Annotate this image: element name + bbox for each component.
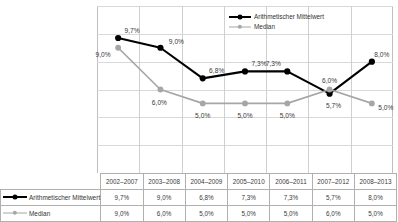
data-label: 8,0% — [374, 50, 389, 57]
data-point — [158, 87, 164, 93]
legend-label-mean: Arithmetischer Mittelwert — [254, 12, 324, 22]
legend-marker-mean-icon — [3, 192, 27, 203]
data-label: 6,0% — [322, 76, 337, 83]
table-column-header: 2003–2008 — [143, 174, 185, 190]
data-label: 9,7% — [125, 27, 140, 34]
data-point — [369, 59, 375, 65]
data-point — [284, 101, 290, 107]
table-row-header-median: Median — [29, 210, 50, 217]
table-row: Median9,0%6,0%5,0%5,0%5,0%6,0%5,0% — [1, 205, 397, 221]
data-point — [200, 75, 206, 81]
table-cell: 6,0% — [143, 205, 185, 221]
legend-marker-median-icon — [3, 208, 27, 219]
table-cell: 7,3% — [270, 189, 312, 205]
data-point — [242, 68, 248, 74]
data-point — [157, 45, 163, 51]
table-cell: 5,0% — [270, 205, 312, 221]
chart-container: 0,0%2,0%4,0%6,0%8,0%10,0%12,0% 9,7%9,0%6… — [0, 0, 398, 222]
data-label: 5,0% — [195, 112, 210, 119]
table-cell: 5,0% — [354, 205, 396, 221]
table-cell: 9,7% — [101, 189, 143, 205]
table-column-header: 2007–2012 — [312, 174, 354, 190]
table-corner-cell — [1, 174, 101, 190]
plot-area: 0,0%2,0%4,0%6,0%8,0%10,0%12,0% 9,7%9,0%6… — [97, 6, 393, 173]
table-column-header: 2004–2009 — [185, 174, 227, 190]
data-point — [369, 101, 375, 107]
table-legend-cell: Arithmetischer Mittelwert — [1, 189, 101, 205]
table-column-header: 2005–2010 — [228, 174, 270, 190]
table-row: Arithmetischer Mittelwert9,7%9,0%6,8%7,3… — [1, 189, 397, 205]
data-table: 2002–20072003–20082004–20092005–20102006… — [0, 173, 397, 222]
legend-item-mean: Arithmetischer Mittelwert — [229, 12, 324, 22]
table-cell: 7,3% — [228, 189, 270, 205]
table-cell: 6,0% — [312, 205, 354, 221]
table-cell: 8,0% — [354, 189, 396, 205]
table-row-header-mean: Arithmetischer Mittelwert — [29, 194, 100, 201]
data-point — [284, 68, 290, 74]
table-cell: 5,7% — [312, 189, 354, 205]
table-cell: 5,0% — [228, 205, 270, 221]
legend-item-median: Median — [229, 22, 324, 32]
data-point — [242, 101, 248, 107]
data-point — [115, 45, 121, 51]
data-label: 6,8% — [209, 67, 224, 74]
table-cell: 9,0% — [101, 205, 143, 221]
table-cell: 9,0% — [143, 189, 185, 205]
legend-marker-mean-icon — [229, 12, 251, 22]
table-cell: 6,8% — [185, 189, 227, 205]
data-label: 7,3% — [251, 60, 266, 67]
data-point — [327, 87, 333, 93]
legend-marker-median-icon — [229, 22, 251, 32]
data-label: 5,7% — [326, 101, 341, 108]
data-label: 5,0% — [237, 112, 252, 119]
data-label: 6,0% — [152, 98, 167, 105]
table-cell: 5,0% — [185, 205, 227, 221]
data-label: 9,0% — [169, 37, 184, 44]
table-legend-cell: Median — [1, 205, 101, 221]
data-point — [200, 101, 206, 107]
data-label: 5,0% — [378, 104, 393, 111]
table-header-row: 2002–20072003–20082004–20092005–20102006… — [1, 174, 397, 190]
legend-label-median: Median — [254, 22, 275, 32]
table-column-header: 2006–2011 — [270, 174, 312, 190]
table-column-header: 2008–2013 — [354, 174, 396, 190]
data-point — [115, 35, 121, 41]
data-label: 7,3% — [266, 60, 281, 67]
table-column-header: 2002–2007 — [101, 174, 143, 190]
data-label: 5,0% — [280, 112, 295, 119]
chart-legend: Arithmetischer Mittelwert Median — [229, 12, 324, 32]
data-label: 9,0% — [96, 50, 111, 57]
